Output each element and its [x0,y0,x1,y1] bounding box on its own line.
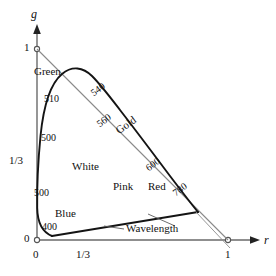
wavelength-label-500-lower: 500 [34,188,49,198]
origin-marker [34,237,39,242]
x-axis-name: r [264,234,269,246]
x-tick-label-0: 0 [33,249,39,260]
region-label-green: Green [34,66,61,77]
wavelength-label-500-upper: 500 [41,133,56,143]
y-tick-label-one-third: 1/3 [9,155,23,166]
region-label-pink: Pink [113,181,133,192]
y-axis-name: g [31,8,37,20]
x-tick-label-1: 1 [225,249,231,260]
y-tick-label-0: 0 [24,233,30,244]
x-tick-label-one-third: 1/3 [76,249,90,260]
chromaticity-diagram-figure: g r 1 1/3 0 0 1/3 1 Green Gold White Pin… [0,0,276,276]
wavelength-leader-far-right [196,212,230,248]
region-label-blue: Blue [55,208,76,219]
wavelength-callout-label: Wavelength [126,223,178,234]
y-axis-arrowhead [33,24,41,34]
wavelength-label-510: 510 [44,94,59,104]
region-label-white: White [72,161,99,172]
region-label-red: Red [148,181,166,192]
x-axis-arrowhead [250,236,260,244]
wavelength-label-400: 400 [42,222,57,232]
y-tick-label-1: 1 [24,42,30,53]
